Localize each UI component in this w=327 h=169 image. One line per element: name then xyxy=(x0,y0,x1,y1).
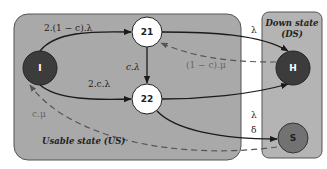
node-21: 21 xyxy=(132,17,162,47)
state-transition-diagram: I 21 22 H S 2.(1 − c).λ 2.c.λ c.λ λ (1 −… xyxy=(0,0,327,169)
node-s-label: S xyxy=(290,133,296,143)
label-s-to-i: c.μ xyxy=(32,109,46,119)
label-21-to-h: λ xyxy=(251,25,257,35)
node-22-label: 22 xyxy=(141,94,154,104)
node-22: 22 xyxy=(132,84,162,114)
node-21-label: 21 xyxy=(141,27,154,37)
node-s: S xyxy=(278,123,308,153)
label-i-to-21: 2.(1 − c).λ xyxy=(44,23,92,33)
node-i: I xyxy=(23,51,57,85)
label-22-to-h: λ xyxy=(251,110,257,120)
label-22-to-s: δ xyxy=(251,125,256,135)
node-h-label: H xyxy=(289,63,297,73)
node-h: H xyxy=(276,51,310,85)
label-h-to-21: (1 − c).μ xyxy=(186,60,226,70)
label-21-to-22: c.λ xyxy=(126,62,140,72)
node-i-label: I xyxy=(38,63,41,73)
down-state-title-line2: (DS) xyxy=(281,29,303,39)
label-i-to-22: 2.c.λ xyxy=(88,79,110,89)
down-state-title-line1: Down state xyxy=(264,18,319,28)
usable-state-title: Usable state (US) xyxy=(42,136,125,146)
